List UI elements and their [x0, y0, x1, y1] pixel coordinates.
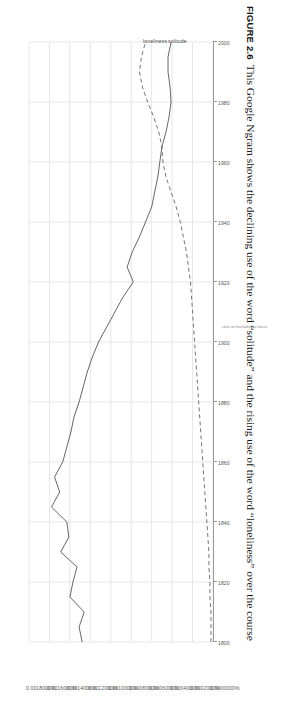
figure-number: FIGURE 2.6: [245, 6, 256, 60]
x-tick-label: 1920: [218, 280, 230, 286]
x-tick-label: 1960: [218, 160, 230, 166]
x-tick-label: 1900: [218, 340, 230, 346]
series-lines[interactable]: [29, 42, 213, 642]
x-tick-label: 1860: [218, 460, 230, 466]
ngram-chart-rotor: 1800182018401860188019001920194019601980…: [17, 22, 255, 688]
x-tick-mark: [213, 161, 217, 162]
x-tick-mark: [213, 41, 217, 42]
x-tick-label: 1820: [218, 580, 230, 586]
x-axis-line: [213, 42, 214, 642]
x-tick-mark: [213, 521, 217, 522]
x-tick-label: 2000: [218, 40, 230, 46]
x-tick-mark: [213, 401, 217, 402]
plot-area[interactable]: [29, 42, 213, 642]
series-solitude: [51, 42, 171, 642]
series-label-loneliness[interactable]: loneliness: [143, 38, 167, 44]
x-tick-mark: [213, 101, 217, 102]
figure-caption-text: This Google Ngram shows the declining us…: [245, 65, 257, 641]
x-tick-label: 1880: [218, 400, 230, 406]
series-loneliness: [139, 42, 211, 642]
x-tick-label: 1840: [218, 520, 230, 526]
x-tick-label: 1940: [218, 220, 230, 226]
x-tick-mark: [213, 221, 217, 222]
google-ngram-chart[interactable]: 1800182018401860188019001920194019601980…: [17, 22, 255, 688]
x-tick-mark: [213, 641, 217, 642]
x-tick-label: 1800: [218, 640, 230, 646]
series-label-solitude[interactable]: solitude: [168, 38, 187, 44]
x-tick-mark: [213, 461, 217, 462]
x-tick-label: 1980: [218, 100, 230, 106]
figure-caption: FIGURE 2.6This Google Ngram shows the de…: [230, 6, 258, 712]
x-tick-mark: [213, 581, 217, 582]
x-tick-mark: [213, 281, 217, 282]
x-tick-mark: [213, 341, 217, 342]
